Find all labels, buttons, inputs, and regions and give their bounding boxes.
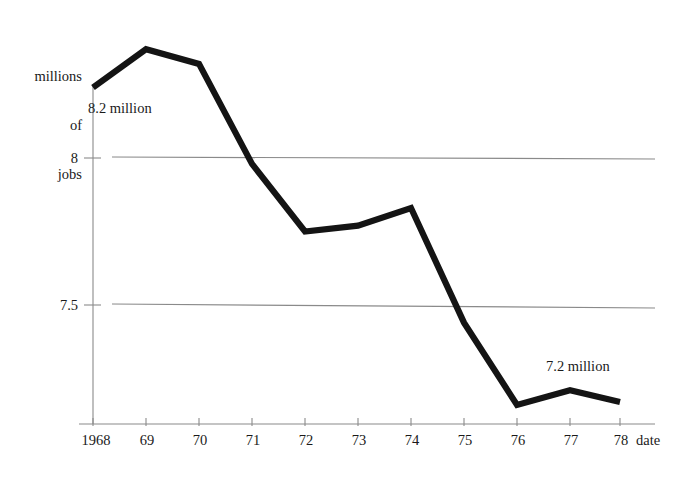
gridline-7-5 [112, 304, 655, 308]
x-tick-label-69: 69 [140, 432, 155, 449]
x-tick-label-72: 72 [299, 432, 314, 449]
y-axis-title: millions of jobs [8, 36, 82, 215]
annotation-start-value: 8.2 million [88, 100, 152, 117]
y-tick-label-7-5: 7.5 [38, 297, 78, 314]
annotation-end-value: 7.2 million [546, 358, 610, 375]
x-tick-label-75: 75 [458, 432, 473, 449]
x-tick-label-1968: 1968 [82, 432, 111, 449]
x-tick-label-78: 78 [614, 432, 629, 449]
y-tick-label-8: 8 [44, 150, 78, 167]
chart-container: millions of jobs 8 7.5 1968 69 70 71 72 … [0, 0, 690, 478]
x-axis-name: date [636, 432, 660, 449]
x-tick-label-76: 76 [511, 432, 526, 449]
y-axis-title-line-3: jobs [8, 166, 82, 182]
y-axis-title-line-2: of [8, 117, 82, 133]
x-tick-label-73: 73 [352, 432, 367, 449]
x-tick-label-74: 74 [405, 432, 420, 449]
x-tick-label-70: 70 [193, 432, 208, 449]
x-tick-label-77: 77 [564, 432, 579, 449]
y-axis-title-line-1: millions [8, 68, 82, 84]
data-series-line [93, 49, 620, 405]
x-tick-label-71: 71 [246, 432, 261, 449]
line-chart-plot [0, 0, 690, 478]
gridline-8 [112, 157, 655, 159]
x-tick-marks [93, 418, 620, 426]
